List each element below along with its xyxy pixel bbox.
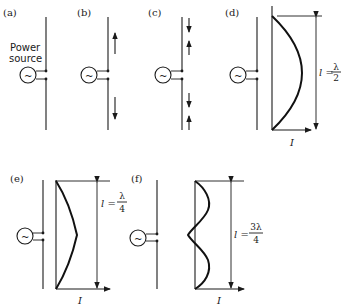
sine-glyph: ~ <box>21 231 29 242</box>
terminal-dot <box>42 232 45 235</box>
current-distribution-curve <box>56 181 77 289</box>
current-distribution-curve <box>188 181 209 289</box>
fraction-numerator: λ <box>119 191 125 201</box>
terminal-dot <box>42 239 45 242</box>
length-label: l = <box>101 198 116 209</box>
terminal-dot <box>107 70 110 73</box>
length-label: l = <box>319 67 334 78</box>
sine-glyph: ~ <box>159 70 167 81</box>
sine-glyph: ~ <box>134 233 142 244</box>
fraction-numerator: λ <box>333 62 339 72</box>
terminal-dot <box>256 78 259 81</box>
terminal-dot <box>181 78 184 81</box>
panel-b-label: (b) <box>77 7 91 18</box>
terminal-dot <box>256 70 259 73</box>
current-distribution-curve <box>272 16 302 130</box>
length-label: l = <box>234 229 249 240</box>
fraction-denominator: 4 <box>119 204 125 214</box>
panel-a-label: (a) <box>3 7 17 18</box>
terminal-dot <box>181 70 184 73</box>
panel-c: (c) ~ <box>148 7 189 130</box>
terminal-dot <box>156 240 159 243</box>
fraction-denominator: 4 <box>253 235 259 245</box>
terminal-dot <box>45 70 48 73</box>
power-source-label-line1: Power <box>10 42 41 53</box>
sine-glyph: ~ <box>85 70 93 81</box>
current-label: I <box>289 137 295 148</box>
current-label: I <box>77 295 83 306</box>
terminal-dot <box>45 78 48 81</box>
panel-c-label: (c) <box>148 7 162 18</box>
fraction-denominator: 2 <box>333 73 339 83</box>
panel-e: (e) ~ l = λ 4 I <box>10 173 127 306</box>
terminal-dot <box>107 78 110 81</box>
panel-d-label: (d) <box>225 7 239 18</box>
panel-a: (a) Power source ~ <box>3 7 47 130</box>
power-source-label-line2: source <box>9 53 42 64</box>
panel-f-label: (f) <box>131 173 143 184</box>
panel-e-label: (e) <box>10 173 24 184</box>
current-label: I <box>216 295 222 306</box>
sine-glyph: ~ <box>234 70 242 81</box>
panel-d: (d) ~ l = λ 2 I <box>225 6 341 148</box>
terminal-dot <box>156 233 159 236</box>
panel-f: (f) ~ l = 3λ 4 I <box>130 173 263 306</box>
antenna-current-diagram: (a) Power source ~ (b) ~ (c) ~ <box>0 0 346 308</box>
fraction-numerator: 3λ <box>250 222 262 232</box>
panel-b: (b) ~ <box>77 7 115 130</box>
sine-glyph: ~ <box>24 70 32 81</box>
